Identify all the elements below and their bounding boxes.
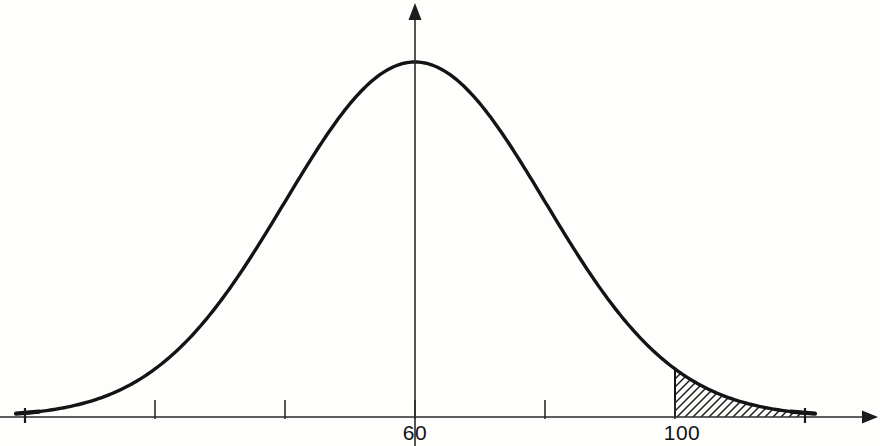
normal-distribution-figure: 60 100 — [0, 0, 880, 446]
shaded-tail-region — [675, 363, 805, 417]
x-tick-label-60: 60 — [403, 421, 427, 444]
right-tail-cap — [791, 412, 815, 414]
y-axis-arrowhead — [409, 3, 422, 20]
x-tick-label-100: 100 — [664, 421, 701, 444]
hatch-line — [677, 363, 731, 417]
hatch-line — [709, 363, 763, 417]
hatch-pattern-group — [675, 363, 805, 417]
hatch-line — [717, 363, 771, 417]
distribution-chart-svg: 60 100 — [0, 0, 880, 446]
hatch-line — [693, 363, 747, 417]
left-tail-cap — [16, 412, 39, 414]
x-axis-arrowhead — [862, 411, 878, 424]
